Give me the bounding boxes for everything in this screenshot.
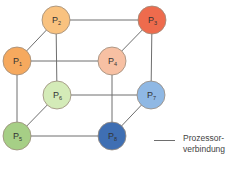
node-p4: P4 [98, 47, 126, 75]
node-p1: P1 [3, 47, 31, 75]
legend-label: Prozessor- verbindung [183, 133, 225, 155]
node-p5: P5 [3, 122, 31, 150]
processor-nodes: P1P2P3P4P5P6P7P8 [3, 6, 166, 150]
legend: Prozessor- verbindung [154, 133, 241, 163]
node-p3: P3 [138, 6, 166, 34]
legend-line-sample [154, 140, 175, 141]
node-p8: P8 [98, 122, 126, 150]
node-p2: P2 [42, 6, 70, 34]
node-p7: P7 [137, 81, 165, 109]
processor-connections [17, 20, 152, 136]
node-p6: P6 [43, 81, 71, 109]
